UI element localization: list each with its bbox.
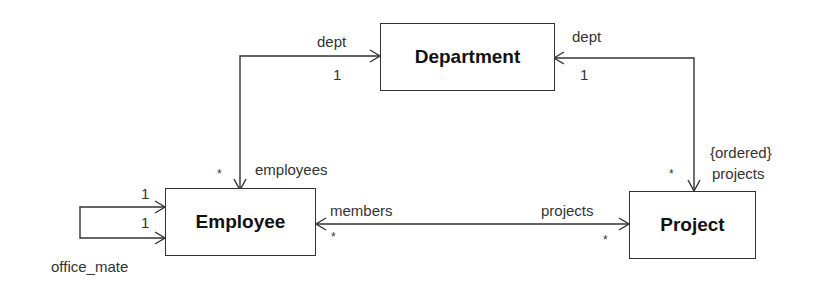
mult-star-projects-bottom: * bbox=[603, 234, 608, 246]
role-office-mate: office_mate bbox=[51, 259, 128, 274]
mult-self-one-top: 1 bbox=[141, 186, 149, 201]
role-projects-top: projects bbox=[712, 166, 765, 181]
class-employee-name: Employee bbox=[196, 211, 286, 233]
class-employee: Employee bbox=[165, 188, 316, 256]
line-office-mate bbox=[80, 207, 165, 238]
mult-self-one-bottom: 1 bbox=[141, 215, 149, 230]
uml-class-diagram: Department Employee Project dept 1 dept … bbox=[0, 0, 831, 288]
role-employees: employees bbox=[255, 162, 328, 177]
mult-one-right: 1 bbox=[580, 67, 588, 82]
mult-star-projects-top: * bbox=[669, 168, 674, 180]
class-project: Project bbox=[629, 191, 756, 259]
class-project-name: Project bbox=[660, 214, 724, 236]
class-department-name: Department bbox=[415, 46, 521, 68]
class-department: Department bbox=[380, 23, 555, 91]
role-dept-left: dept bbox=[317, 34, 346, 49]
role-dept-right: dept bbox=[572, 29, 601, 44]
mult-one-left: 1 bbox=[333, 67, 341, 82]
constraint-ordered: {ordered} bbox=[710, 145, 772, 160]
role-members: members bbox=[330, 203, 393, 218]
role-projects-bottom: projects bbox=[541, 203, 594, 218]
mult-star-members: * bbox=[331, 231, 336, 243]
mult-star-employees: * bbox=[217, 168, 222, 180]
